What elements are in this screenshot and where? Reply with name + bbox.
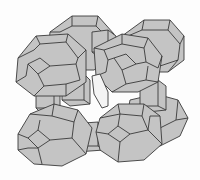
- zeolite-diagram: Zeolite framework: sodalite cages linked…: [0, 0, 200, 180]
- sodalite-cage-front-bottom-left: [18, 104, 92, 166]
- sodalite-cage-front-bottom-right: [96, 104, 162, 162]
- framework-drawing: [0, 0, 200, 180]
- sodalite-cage-front-top-left: [16, 34, 86, 96]
